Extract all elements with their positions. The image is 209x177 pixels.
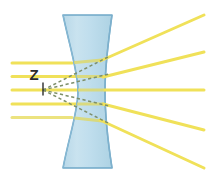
- refracted-ray-2: [103, 52, 204, 77]
- ray-diagram-canvas: Z: [0, 0, 209, 177]
- refracted-ray-group: [100, 15, 204, 168]
- refracted-ray-4: [103, 104, 204, 130]
- focal-point-label: Z: [29, 66, 38, 83]
- refracted-ray-1: [100, 15, 204, 61]
- optics-diagram: Z: [0, 0, 209, 177]
